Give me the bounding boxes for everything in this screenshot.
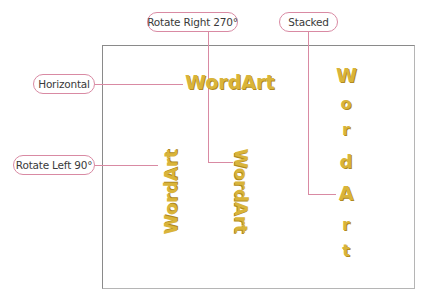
wordart-rotate-left[interactable]: WordArt [160, 159, 181, 235]
wordart-horizontal[interactable]: WordArt [185, 71, 274, 93]
callout-line-stacked-h [308, 194, 336, 195]
callout-rotate-left: Rotate Left 90° [13, 155, 95, 175]
callout-line-rotate-right [208, 32, 209, 162]
stacked-letter: r [336, 215, 356, 234]
callout-rotate-right: Rotate Right 270° [147, 12, 238, 32]
wordart-rotate-right[interactable]: WordArt [231, 149, 252, 225]
callout-line-rotate-right-h [208, 162, 233, 163]
callout-line-stacked [308, 32, 309, 194]
stacked-letter: A [336, 182, 356, 204]
callout-line-rotate-left [95, 165, 158, 166]
stacked-letter: o [336, 94, 356, 113]
stacked-letter: r [336, 120, 356, 139]
callout-stacked: Stacked [279, 12, 338, 32]
stacked-letter: d [336, 151, 356, 172]
callout-horizontal: Horizontal [33, 74, 95, 94]
stacked-letter: W [336, 64, 356, 86]
stacked-letter: t [336, 241, 356, 260]
callout-line-horizontal [95, 84, 183, 85]
